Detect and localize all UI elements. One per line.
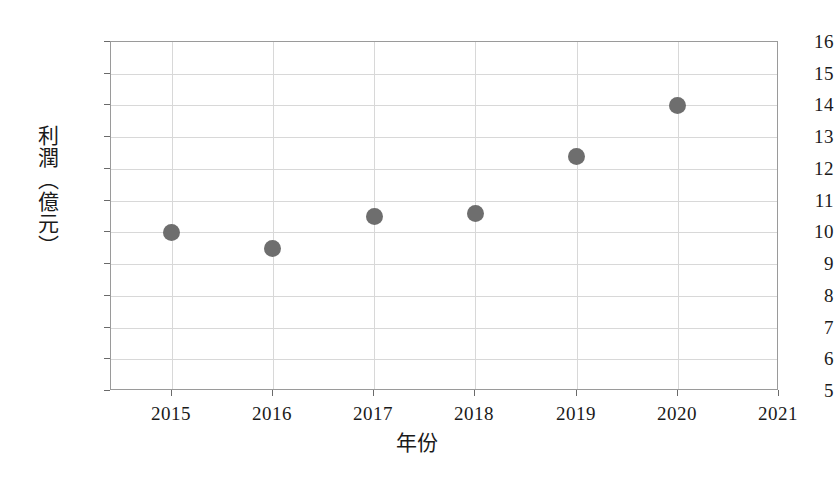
y-axis-tick-mark xyxy=(104,231,110,232)
y-axis-tick-label: 13 xyxy=(748,127,834,146)
chart-root: 利潤（億元） 年份 567891011121314151620152016201… xyxy=(0,0,834,489)
x-axis-tick-mark xyxy=(272,390,273,396)
y-axis-tick-mark xyxy=(104,104,110,105)
x-axis-tick-label: 2021 xyxy=(723,404,833,423)
y-axis-tick-mark xyxy=(104,168,110,169)
data-point-marker xyxy=(669,97,686,114)
y-axis-tick-label: 6 xyxy=(748,349,834,368)
y-axis-tick-label: 10 xyxy=(748,222,834,241)
y-axis-tick-mark xyxy=(104,73,110,74)
y-axis-tick-label: 14 xyxy=(748,95,834,114)
x-axis-tick-label: 2020 xyxy=(622,404,732,423)
data-point-marker xyxy=(264,240,281,257)
x-axis-tick-label: 2016 xyxy=(217,404,327,423)
x-axis-tick-mark xyxy=(171,390,172,396)
data-point-marker xyxy=(467,205,484,222)
y-axis-tick-mark xyxy=(104,263,110,264)
gridline-vertical xyxy=(577,42,578,389)
y-axis-tick-mark xyxy=(104,136,110,137)
y-axis-tick-label: 5 xyxy=(748,381,834,400)
x-axis-tick-mark xyxy=(373,390,374,396)
y-axis-tick-label: 8 xyxy=(748,286,834,305)
gridline-vertical xyxy=(172,42,173,389)
x-axis-title: 年份 xyxy=(0,430,834,456)
y-axis-tick-mark xyxy=(104,358,110,359)
data-point-marker xyxy=(163,224,180,241)
x-axis-tick-label: 2019 xyxy=(521,404,631,423)
y-axis-tick-label: 11 xyxy=(748,191,834,210)
y-axis-tick-mark xyxy=(104,295,110,296)
y-axis-tick-label: 12 xyxy=(748,159,834,178)
y-axis-tick-mark xyxy=(104,200,110,201)
y-axis-tick-label: 7 xyxy=(748,318,834,337)
plot-area xyxy=(110,41,778,390)
data-point-marker xyxy=(568,148,585,165)
x-axis-tick-mark xyxy=(677,390,678,396)
data-point-marker xyxy=(366,208,383,225)
y-axis-tick-label: 16 xyxy=(748,32,834,51)
x-axis-tick-mark xyxy=(576,390,577,396)
gridline-vertical xyxy=(678,42,679,389)
x-axis-tick-label: 2018 xyxy=(419,404,529,423)
x-axis-tick-label: 2015 xyxy=(116,404,226,423)
y-axis-title: 利潤（億元） xyxy=(30,125,60,257)
x-axis-tick-mark xyxy=(474,390,475,396)
y-axis-tick-label: 15 xyxy=(748,64,834,83)
y-axis-tick-mark xyxy=(104,390,110,391)
y-axis-tick-mark xyxy=(104,41,110,42)
gridline-vertical xyxy=(273,42,274,389)
x-axis-tick-mark xyxy=(778,390,779,396)
y-axis-tick-label: 9 xyxy=(748,254,834,273)
x-axis-tick-label: 2017 xyxy=(318,404,428,423)
y-axis-tick-mark xyxy=(104,327,110,328)
